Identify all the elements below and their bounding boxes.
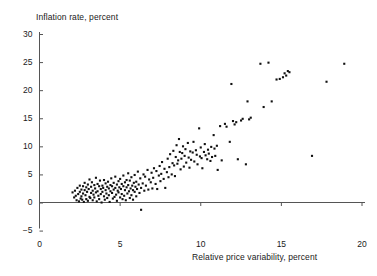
scatter-point [175, 156, 177, 158]
scatter-point [105, 192, 107, 194]
scatter-point [90, 192, 92, 194]
scatter-point [100, 188, 102, 190]
scatter-point [166, 171, 168, 173]
scatter-point [91, 181, 93, 183]
scatter-point [159, 165, 161, 167]
scatter-point [271, 100, 273, 102]
scatter-point [245, 163, 247, 165]
scatter-point [174, 175, 176, 177]
scatter-point [133, 182, 135, 184]
scatter-point [284, 72, 286, 74]
scatter-point [163, 178, 165, 180]
scatter-point [110, 177, 112, 179]
x-axis-ticks [120, 203, 362, 207]
scatter-point [279, 78, 281, 80]
scatter-point [115, 194, 117, 196]
scatter-point [172, 150, 174, 152]
scatter-point [155, 183, 157, 185]
scatter-point [196, 154, 198, 156]
scatter-point [209, 160, 211, 162]
scatter-point [230, 83, 232, 85]
scatter-point [188, 167, 190, 169]
scatter-point [140, 187, 142, 189]
scatter-point [116, 200, 118, 202]
scatter-point [143, 190, 145, 192]
scatter-point [221, 159, 223, 161]
scatter-point [124, 189, 126, 191]
scatter-point [124, 181, 126, 183]
scatter-point [246, 100, 248, 102]
scatter-point [148, 178, 150, 180]
scatter-point [130, 187, 132, 189]
scatter-point [180, 158, 182, 160]
scatter-point [146, 169, 148, 171]
scatter-point [275, 78, 277, 80]
scatter-point [134, 191, 136, 193]
scatter-point [237, 158, 239, 160]
scatter-point [98, 185, 100, 187]
scatter-point [109, 201, 111, 203]
scatter-point [207, 149, 209, 151]
scatter-point [80, 189, 82, 191]
scatter-point [92, 190, 94, 192]
scatter-point [176, 163, 178, 165]
scatter-point [138, 192, 140, 194]
scatter-point [142, 173, 144, 175]
scatter-point [122, 185, 124, 187]
scatter-point [80, 195, 82, 197]
scatter-point [206, 158, 208, 160]
scatter-point [104, 199, 106, 201]
scatter-point [103, 179, 105, 181]
scatter-point [234, 123, 236, 125]
scatter-point [242, 118, 244, 120]
scatter-point [120, 188, 122, 190]
scatter-point [125, 199, 127, 201]
scatter-point [105, 189, 107, 191]
scatter-point [107, 181, 109, 183]
scatter-point [311, 155, 313, 157]
scatter-point [128, 190, 130, 192]
scatter-point [192, 141, 194, 143]
scatter-point [101, 201, 103, 203]
scatter-point [97, 195, 99, 197]
scatter-point [153, 167, 155, 169]
scatter-point [235, 121, 237, 123]
scatter-point [121, 198, 123, 200]
scatter-point [135, 195, 137, 197]
scatter-point [76, 187, 78, 189]
scatter-point [84, 189, 86, 191]
scatter-point [192, 151, 194, 153]
scatter-point [119, 178, 121, 180]
scatter-point [134, 186, 136, 188]
scatter-point [100, 193, 102, 195]
scatter-point [90, 186, 92, 188]
scatter-point [121, 193, 123, 195]
scatter-point [167, 158, 169, 160]
scatter-point [176, 144, 178, 146]
scatter-point [201, 167, 203, 169]
scatter-point [180, 168, 182, 170]
scatter-point [93, 196, 95, 198]
scatter-point [263, 106, 265, 108]
scatter-point [135, 181, 137, 183]
scatter-point [97, 183, 99, 185]
scatter-point [189, 150, 191, 152]
scatter-point [288, 71, 290, 73]
scatter-point [117, 180, 119, 182]
scatter-point [158, 174, 160, 176]
scatter-point [147, 189, 149, 191]
scatter-point [140, 209, 142, 211]
scatter-point [184, 148, 186, 150]
scatter-point [142, 182, 144, 184]
scatter-point [103, 195, 105, 197]
scatter-point [114, 187, 116, 189]
axis-lines [40, 32, 366, 229]
scatter-point [127, 172, 129, 174]
scatter-point [129, 180, 131, 182]
scatter-point [167, 176, 169, 178]
scatter-point [211, 156, 213, 158]
scatter-point [83, 201, 85, 203]
scatter-point [76, 199, 78, 201]
scatter-point [106, 197, 108, 199]
scatter-point [99, 180, 101, 182]
